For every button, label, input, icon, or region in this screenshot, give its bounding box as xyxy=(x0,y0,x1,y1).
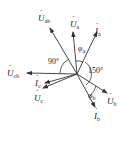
svg-text:·: · xyxy=(96,18,98,28)
angle-150-label: 150° xyxy=(88,66,103,75)
phasor-u-c xyxy=(43,74,77,88)
angle-90-label: 90° xyxy=(48,57,59,66)
phasor-diagram: Uab · Ua · Ia · Ucb · Ic · Uc · Ub · Ib … xyxy=(0,0,135,141)
svg-text:·: · xyxy=(109,88,111,98)
phasor-u-cb xyxy=(27,73,77,74)
angle-phi-b-label: φb xyxy=(88,91,95,101)
phasor-i-c xyxy=(45,74,77,83)
svg-text:·: · xyxy=(40,5,42,15)
svg-text:·: · xyxy=(95,103,97,113)
svg-text:·: · xyxy=(72,11,74,21)
svg-text:·: · xyxy=(9,60,11,70)
arc-90 xyxy=(60,60,68,74)
arc-phi-a xyxy=(76,61,83,62)
svg-text:·: · xyxy=(36,70,38,80)
svg-text:·: · xyxy=(36,85,38,95)
angle-phi-a-label: φa xyxy=(78,44,85,54)
